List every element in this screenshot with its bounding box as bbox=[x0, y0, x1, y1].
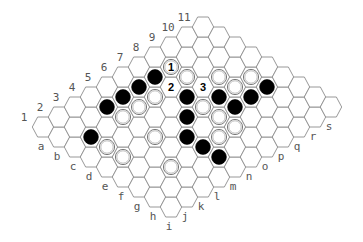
row-label: 8 bbox=[133, 41, 140, 54]
black-stone bbox=[180, 130, 195, 145]
row-label: 5 bbox=[85, 71, 92, 84]
column-label: n bbox=[246, 170, 253, 183]
row-label: 11 bbox=[177, 11, 190, 24]
white-stone bbox=[211, 109, 226, 124]
column-label: s bbox=[326, 120, 333, 133]
row-label: 1 bbox=[21, 111, 28, 124]
column-label: q bbox=[294, 140, 301, 153]
white-stone bbox=[99, 139, 114, 154]
row-label: 6 bbox=[101, 61, 108, 74]
column-label: a bbox=[38, 140, 45, 153]
column-label: p bbox=[278, 150, 285, 163]
white-stone bbox=[147, 129, 162, 144]
row-label: 3 bbox=[53, 91, 60, 104]
row-label: 9 bbox=[149, 31, 156, 44]
black-stone bbox=[228, 100, 243, 115]
white-stone bbox=[115, 109, 130, 124]
white-stone bbox=[163, 159, 178, 174]
black-stone bbox=[244, 90, 259, 105]
column-label: f bbox=[118, 190, 125, 203]
column-label: j bbox=[182, 210, 189, 223]
column-label: h bbox=[150, 210, 157, 223]
black-stone bbox=[260, 80, 275, 95]
white-stone bbox=[211, 129, 226, 144]
column-label: i bbox=[166, 220, 173, 233]
move-number-label: 3 bbox=[200, 81, 206, 93]
white-stone bbox=[195, 99, 210, 114]
row-label: 2 bbox=[37, 101, 44, 114]
row-label: 10 bbox=[161, 21, 174, 34]
column-label: g bbox=[134, 200, 141, 213]
white-stone bbox=[115, 149, 130, 164]
column-label: m bbox=[230, 180, 237, 193]
black-stone bbox=[180, 110, 195, 125]
column-label: b bbox=[54, 150, 61, 163]
black-stone bbox=[212, 150, 227, 165]
white-stone bbox=[227, 119, 242, 134]
column-label: e bbox=[102, 180, 109, 193]
move-number-label: 1 bbox=[168, 61, 174, 73]
black-stone bbox=[212, 90, 227, 105]
white-stone bbox=[131, 99, 146, 114]
column-label: c bbox=[70, 160, 77, 173]
black-stone bbox=[148, 70, 163, 85]
column-label: l bbox=[214, 190, 221, 203]
black-stone bbox=[132, 80, 147, 95]
hex-board: 123 1234567891011abcdefghijklmnopqrs bbox=[0, 0, 363, 242]
white-stone bbox=[243, 69, 258, 84]
column-label: d bbox=[86, 170, 93, 183]
row-label: 7 bbox=[117, 51, 124, 64]
black-stone bbox=[100, 100, 115, 115]
hex-board-svg: 123 1234567891011abcdefghijklmnopqrs bbox=[0, 0, 363, 242]
column-label: r bbox=[310, 130, 317, 143]
black-stone bbox=[116, 90, 131, 105]
black-stone bbox=[180, 90, 195, 105]
column-label: k bbox=[198, 200, 205, 213]
white-stone bbox=[227, 79, 242, 94]
white-stone bbox=[211, 69, 226, 84]
black-stone bbox=[84, 130, 99, 145]
move-number-label: 2 bbox=[168, 81, 174, 93]
column-label: o bbox=[262, 160, 269, 173]
white-stone bbox=[147, 89, 162, 104]
row-label: 4 bbox=[69, 81, 76, 94]
black-stone bbox=[196, 140, 211, 155]
white-stone bbox=[179, 69, 194, 84]
